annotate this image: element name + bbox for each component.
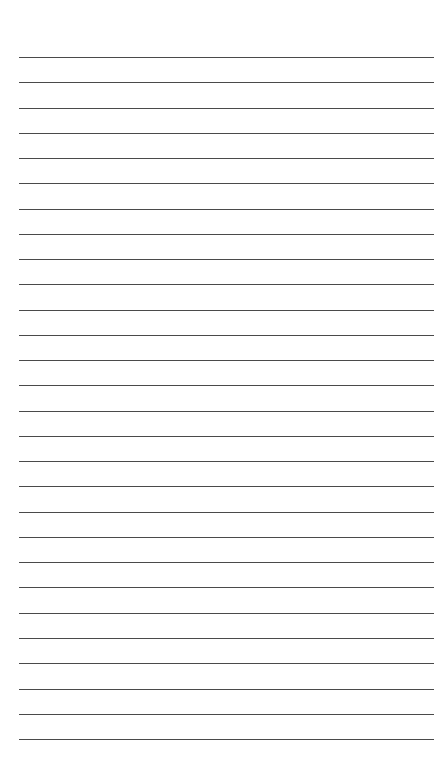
ruled-line (19, 284, 434, 285)
ruled-line (19, 436, 434, 437)
ruled-line (19, 234, 434, 235)
ruled-line (19, 183, 434, 184)
ruled-line (19, 133, 434, 134)
ruled-line (19, 638, 434, 639)
ruled-line (19, 108, 434, 109)
ruled-line (19, 739, 434, 740)
ruled-line (19, 385, 434, 386)
ruled-line (19, 562, 434, 563)
ruled-line (19, 613, 434, 614)
ruled-line (19, 587, 434, 588)
ruled-line (19, 512, 434, 513)
lined-paper-sheet (0, 0, 443, 764)
ruled-line (19, 689, 434, 690)
ruled-line (19, 714, 434, 715)
ruled-line (19, 82, 434, 83)
ruled-line (19, 209, 434, 210)
ruled-line (19, 57, 434, 58)
ruled-line (19, 411, 434, 412)
ruled-line (19, 486, 434, 487)
ruled-line (19, 663, 434, 664)
ruled-line (19, 461, 434, 462)
ruled-line (19, 158, 434, 159)
ruled-line (19, 360, 434, 361)
ruled-line (19, 310, 434, 311)
ruled-line (19, 259, 434, 260)
ruled-line (19, 537, 434, 538)
ruled-line (19, 335, 434, 336)
